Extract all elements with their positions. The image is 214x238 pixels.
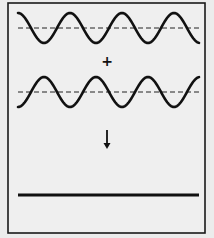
interference-diagram: + [0,0,214,238]
plus-operator: + [101,53,113,69]
